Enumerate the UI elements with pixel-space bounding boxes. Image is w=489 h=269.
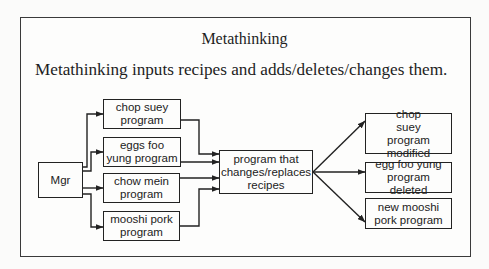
- output-egg-foo-yung-deleted-box: egg foo yung program deleted: [365, 162, 452, 193]
- processor-box: program that changes/replaces recipes: [219, 150, 313, 194]
- chop-suey-program-box: chop suey program: [103, 99, 181, 129]
- mooshi-pork-program-box: mooshi pork program: [103, 211, 180, 241]
- eggs-foo-yung-program-box: eggs foo yung program: [103, 137, 181, 167]
- arrow-mgr-to-eggs-foo-yung: [82, 152, 103, 171]
- arrow-mgr-to-chop-suey: [82, 114, 103, 167]
- output-new-mooshi-pork-box: new mooshi pork program: [365, 198, 452, 229]
- output-chop-suey-modified-box: chop suey program modified: [365, 113, 452, 154]
- arrow-mgr-to-mooshi-pork: [82, 194, 103, 227]
- mgr-label: Mgr: [51, 174, 71, 187]
- chow-mein-program-box: chow mein program: [103, 173, 180, 203]
- mgr-box: Mgr: [38, 162, 83, 198]
- arrow-mooshi-pork-to-processor: [180, 189, 219, 226]
- arrow-processor-to-modified: [313, 121, 365, 172]
- arrow-processor-to-new: [313, 172, 365, 222]
- arrow-chop-suey-to-processor: [181, 120, 219, 154]
